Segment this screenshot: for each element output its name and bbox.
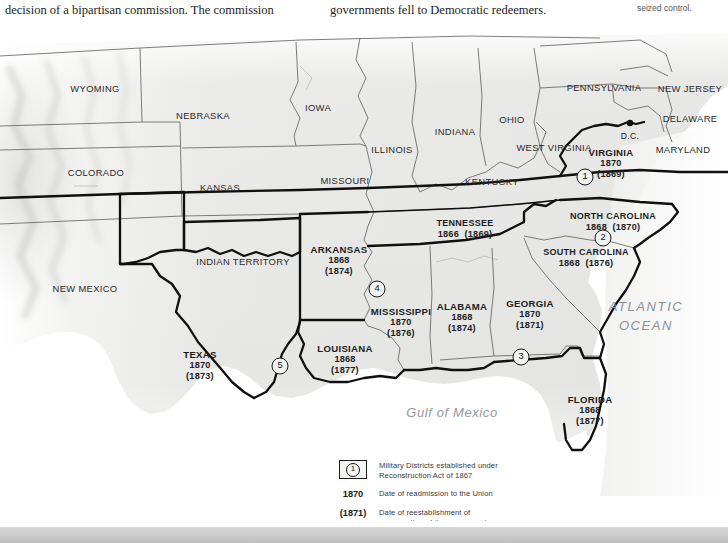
legend-conservative-year: (1871) (340, 508, 367, 518)
district-marker-3[interactable]: 3 (513, 349, 530, 366)
legend-row-military-districts: 1 Military Districts established under R… (327, 460, 577, 482)
page-bottom-bar (0, 527, 728, 543)
district-marker-5[interactable]: 5 (272, 358, 289, 375)
district-marker-4[interactable]: 4 (369, 281, 386, 298)
district-marker-1[interactable]: 1 (577, 169, 594, 186)
body-text-column-left: decision of a bipartisan commission. The… (5, 3, 274, 18)
district-marker-2[interactable]: 2 (595, 230, 612, 247)
legend-row-conservative: (1871) Date of reestablishment of conser… (327, 508, 577, 521)
map-legend: 1 Military Districts established under R… (327, 460, 577, 521)
dc-marker (627, 120, 633, 126)
legend-text-conservative: Date of reestablishment of conservative … (379, 508, 487, 521)
legend-text-military-districts: Military Districts established under Rec… (379, 460, 498, 482)
page-body-text: decision of a bipartisan commission. The… (0, 0, 728, 26)
legend-readmission-year: 1870 (343, 489, 363, 499)
map-graphic (0, 26, 728, 521)
body-text-column-right: seized control. (637, 3, 692, 13)
boxed-number-icon: 1 (339, 460, 367, 479)
legend-key-readmission: 1870 (327, 489, 379, 499)
reconstruction-map: WYOMING NEBRASKA IOWA ILLINOIS INDIANA O… (0, 26, 728, 521)
legend-key-conservative: (1871) (327, 508, 379, 518)
legend-district-number: 1 (346, 463, 360, 477)
legend-row-readmission: 1870 Date of readmission to the Union (327, 489, 577, 499)
legend-key-military-districts: 1 (327, 460, 379, 479)
legend-text-readmission: Date of readmission to the Union (379, 489, 493, 499)
body-text-column-middle: governments fell to Democratic redeemers… (330, 3, 546, 18)
